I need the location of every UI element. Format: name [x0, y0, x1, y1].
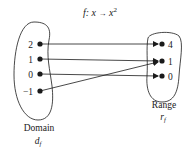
domain-label-2: 2 — [28, 40, 33, 50]
range-label-4: 4 — [168, 40, 173, 50]
function-title: f: x → x2 — [83, 6, 118, 18]
mapping-arrows — [40, 44, 158, 91]
domain-label-0: 0 — [28, 70, 33, 80]
arrow-neg1-to-1 — [40, 62, 158, 91]
domain-point-2 — [37, 41, 42, 46]
domain-symbol: df — [35, 136, 43, 147]
range-symbol: rf — [160, 112, 167, 123]
domain-point-neg1 — [37, 88, 42, 93]
range-elements: 4 1 0 — [159, 40, 173, 82]
range-caption: Range — [152, 100, 176, 110]
domain-elements: 2 1 0 −1 — [23, 40, 43, 97]
range-label-1: 1 — [168, 57, 173, 67]
domain-label-neg1: −1 — [23, 87, 33, 97]
domain-caption: Domain — [24, 123, 55, 133]
range-point-0 — [159, 73, 164, 78]
domain-point-0 — [37, 71, 42, 76]
arrow-0-to-0 — [40, 74, 158, 76]
range-point-1 — [159, 58, 164, 63]
domain-label-1: 1 — [28, 55, 33, 65]
range-point-4 — [159, 41, 164, 46]
domain-set-outline — [14, 22, 53, 120]
arrow-1-to-1 — [40, 59, 158, 61]
function-mapping-diagram: f: x → x2 2 1 0 −1 4 1 0 Domain df Range — [0, 0, 190, 152]
domain-point-1 — [37, 56, 42, 61]
range-label-0: 0 — [168, 72, 173, 82]
